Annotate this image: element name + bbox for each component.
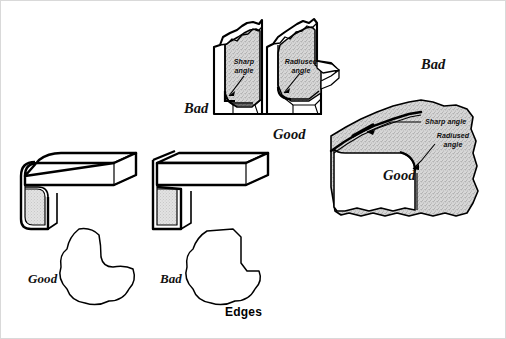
bracket-rounded-label: Good: [28, 272, 57, 285]
sharp-angle-annotation-line1: Sharp: [227, 58, 261, 67]
figure-edges: Bad Good Sharp angle Radiused angle Bad …: [0, 0, 506, 339]
block-sharp-angle-annotation: Sharp angle: [425, 118, 466, 127]
bracket-sharp-label: Bad: [160, 272, 182, 285]
block-bad-label: Bad: [421, 57, 445, 72]
radiused-angle-annotation-line1: Radiused: [280, 58, 322, 67]
sharp-angle-annotation-line2: angle: [227, 67, 261, 76]
block-radiused-annotation-line1: Radiused: [431, 132, 475, 141]
top-bad-label: Bad: [184, 101, 208, 116]
radiused-angle-annotation-line2: angle: [280, 67, 322, 76]
figure-caption: Edges: [225, 305, 262, 319]
block-good-label: Good: [383, 168, 416, 183]
block-radiused-annotation-line2: angle: [431, 141, 475, 150]
top-good-label: Good: [273, 127, 306, 142]
figure-artwork: [1, 1, 506, 339]
